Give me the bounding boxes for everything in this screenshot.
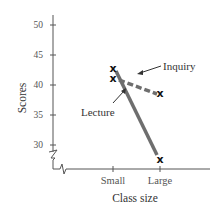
inquiry-arrowhead-icon bbox=[137, 70, 143, 75]
lecture-marker-large: x bbox=[156, 87, 163, 100]
lecture-marker-small: x bbox=[109, 72, 116, 85]
x-axis-break bbox=[60, 164, 66, 174]
y-tick-30: 30 bbox=[34, 140, 44, 150]
inquiry-annotation-arrow bbox=[140, 66, 161, 73]
x-tick-large: Large bbox=[148, 175, 173, 186]
y-tick-50: 50 bbox=[34, 20, 44, 30]
y-axis-title: Scores bbox=[16, 82, 28, 113]
y-tick-45: 45 bbox=[34, 50, 44, 60]
x-axis-title: Class size bbox=[112, 192, 158, 204]
y-axis-break bbox=[49, 150, 57, 160]
inquiry-label: Inquiry bbox=[163, 60, 196, 72]
inquiry-line bbox=[116, 71, 157, 155]
inquiry-marker-large: x bbox=[156, 153, 163, 166]
y-tick-40: 40 bbox=[34, 80, 44, 90]
interaction-chart: 50 45 40 35 30 Small Large Class size Sc… bbox=[0, 0, 220, 214]
lecture-annotation-arrow bbox=[113, 91, 124, 103]
x-tick-small: Small bbox=[101, 175, 126, 186]
lecture-label: Lecture bbox=[81, 106, 115, 118]
y-tick-35: 35 bbox=[34, 110, 44, 120]
